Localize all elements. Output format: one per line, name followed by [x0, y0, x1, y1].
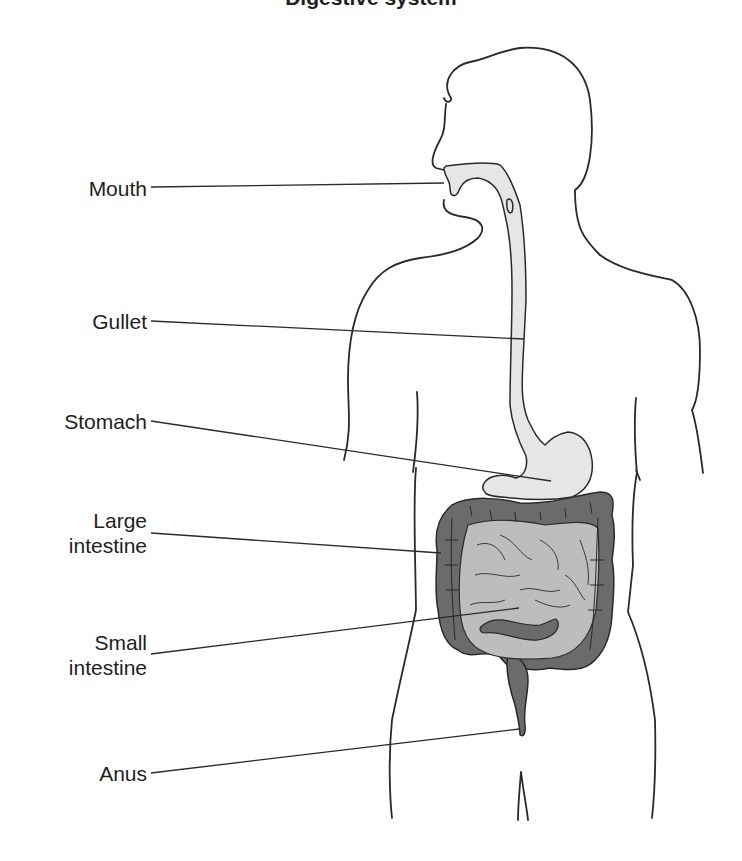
label-anus-text: Anus	[99, 762, 147, 785]
mouth-cavity	[444, 163, 592, 499]
label-mouth: Mouth	[89, 176, 147, 201]
epiglottis	[507, 199, 513, 213]
label-small-intestine-line2: intestine	[69, 655, 147, 680]
small-intestine	[459, 520, 599, 659]
label-large-intestine-line2: intestine	[69, 533, 147, 558]
label-mouth-text: Mouth	[89, 177, 147, 200]
leader-line-mouth	[151, 183, 444, 187]
leader-line-gullet	[151, 321, 524, 339]
label-small-intestine-line1: Small	[69, 630, 147, 655]
upper-tract	[444, 163, 592, 499]
label-anus: Anus	[99, 761, 147, 786]
back-shoulder	[600, 255, 703, 473]
leader-line-stomach	[151, 421, 551, 481]
label-gullet: Gullet	[92, 309, 147, 334]
label-stomach-text: Stomach	[64, 410, 147, 433]
label-gullet-text: Gullet	[92, 310, 147, 333]
label-stomach: Stomach	[64, 409, 147, 434]
legs-split	[518, 772, 528, 820]
neck-front	[344, 200, 482, 460]
rectum	[507, 655, 528, 736]
waist-left	[390, 468, 416, 818]
leader-line-anus	[151, 729, 519, 773]
right-arm-inner	[635, 398, 640, 480]
label-small-intestine: Small intestine	[69, 630, 147, 680]
waist-right	[628, 472, 655, 818]
label-large-intestine-line1: Large	[69, 508, 147, 533]
digestive-system-diagram: Digestive system	[0, 0, 742, 861]
label-large-intestine: Large intestine	[69, 508, 147, 558]
leader-line-large-intestine	[151, 533, 441, 553]
